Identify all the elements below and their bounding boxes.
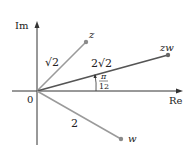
z-modulus-label: √2 xyxy=(45,56,59,69)
origin-label: 0 xyxy=(27,94,33,105)
angle-numerator: π xyxy=(100,72,107,81)
real-axis-arrow-icon xyxy=(176,89,183,94)
z-label: z xyxy=(88,29,95,40)
real-axis-label: Re xyxy=(169,95,183,106)
imag-axis-label: Im xyxy=(15,20,29,31)
zw-modulus-label: 2√2 xyxy=(91,57,112,70)
zw-point xyxy=(166,53,170,57)
angle-denominator: 12 xyxy=(99,82,109,91)
complex-plane: Im Re 0 z zw w √2 2√2 2 π 12 xyxy=(0,0,192,156)
w-label: w xyxy=(128,133,137,144)
zw-label: zw xyxy=(159,42,174,53)
w-vector xyxy=(37,91,121,139)
imag-axis-arrow-icon xyxy=(35,21,40,28)
w-point xyxy=(119,137,123,141)
z-point xyxy=(84,40,88,44)
w-modulus-label: 2 xyxy=(71,117,78,130)
